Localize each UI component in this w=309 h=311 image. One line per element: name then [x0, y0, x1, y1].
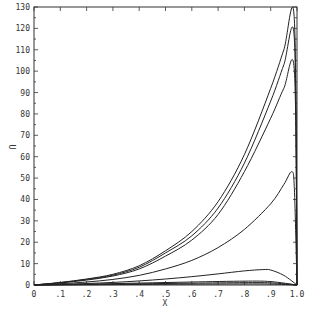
y-tick-label: 40 [20, 195, 30, 204]
y-tick-label: 60 [20, 153, 30, 162]
y-tick-label: 90 [20, 89, 30, 98]
x-tick-label: .8 [240, 290, 250, 299]
y-tick-label: 120 [16, 24, 31, 33]
x-tick-label: .7 [213, 290, 223, 299]
x-tick-label: 0 [32, 290, 37, 299]
y-tick-label: 0 [25, 281, 30, 290]
y-tick-label: 50 [20, 174, 30, 183]
x-tick-label: .4 [134, 290, 144, 299]
x-tick-label: .5 [161, 290, 171, 299]
y-tick-label: 10 [20, 260, 30, 269]
y-tick-label: 110 [16, 46, 31, 55]
y-tick-label: 30 [20, 217, 30, 226]
y-tick-label: 130 [16, 3, 31, 12]
x-tick-label: .3 [108, 290, 118, 299]
x-tick-label: 1.0 [290, 290, 305, 299]
x-tick-label: .2 [82, 290, 92, 299]
y-tick-label: 100 [16, 67, 31, 76]
x-tick-label: .1 [55, 290, 65, 299]
y-tick-label: 20 [20, 238, 30, 247]
x-tick-label: .6 [187, 290, 197, 299]
data-curves [34, 7, 297, 285]
series-line-curve-4 [34, 172, 297, 285]
y-tick-label: 80 [20, 110, 30, 119]
x-axis-label: X [163, 299, 168, 308]
line-chart: 01020304050607080901001101201300.1.2.3.4… [0, 0, 309, 311]
x-tick-label: .9 [266, 290, 276, 299]
y-axis-label: U [7, 145, 16, 150]
series-line-curve-2 [34, 27, 297, 285]
y-tick-label: 70 [20, 131, 30, 140]
